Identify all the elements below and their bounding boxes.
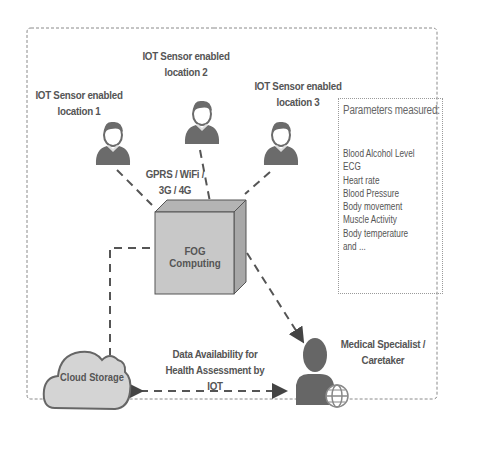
parameter-item: Heart rate (343, 174, 415, 187)
parameter-item: and ... (343, 240, 415, 253)
parameter-item: Blood Alcohol Level (343, 147, 415, 160)
specialist-label: Medical Specialist / Caretaker (332, 336, 434, 368)
network-label-line1: GPRS / WiFi / (141, 166, 209, 182)
data-flow-label-line2: Health Assessment by IOT (160, 362, 271, 394)
sensor-1-label: IOT Sensor enabled location 1 (32, 87, 126, 119)
cloud-storage-label: Cloud Storage (58, 371, 126, 383)
parameters-list: Blood Alcohol Level ECG Heart rate Blood… (343, 147, 430, 253)
data-flow-label-line1: Data Availability for (160, 346, 271, 362)
sensor-2-label-line1: IOT Sensor enabled (139, 48, 233, 64)
sensor-2-label-line2: location 2 (139, 64, 233, 80)
parameter-item: Body movement (343, 200, 415, 213)
sensor-3-label: IOT Sensor enabled location 3 (251, 78, 345, 110)
data-flow-label: Data Availability for Health Assessment … (160, 346, 271, 394)
specialist-label-line1: Medical Specialist / (332, 336, 434, 352)
parameter-item: Body temperature (343, 227, 415, 240)
parameters-title: Parameters measured: (343, 103, 440, 117)
network-label: GPRS / WiFi / 3G / 4G (141, 166, 209, 198)
parameter-item: Blood Pressure (343, 187, 415, 200)
network-label-line2: 3G / 4G (141, 182, 209, 198)
parameter-item: Muscle Activity (343, 213, 415, 226)
parameter-item: ECG (343, 160, 415, 173)
sensor-3-label-line2: location 3 (251, 94, 345, 110)
sensor-1-label-line2: location 1 (32, 103, 126, 119)
sensor-3-label-line1: IOT Sensor enabled (251, 78, 345, 94)
sensor-1-label-line1: IOT Sensor enabled (32, 87, 126, 103)
parameters-box: Parameters measured: Blood Alcohol Level… (338, 98, 443, 294)
sensor-2-label: IOT Sensor enabled location 2 (139, 48, 233, 80)
specialist-label-line2: Caretaker (332, 352, 434, 368)
fog-computing-label: FOG Computing (161, 245, 229, 269)
